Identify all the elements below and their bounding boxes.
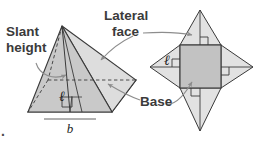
slant-height-label-line1: Slant: [6, 24, 40, 39]
figure-canvas: ℓ b ℓ: [0, 0, 276, 145]
pyramid-slant-height-symbol: ℓ: [59, 89, 65, 104]
geometry-figure: ℓ b ℓ: [0, 0, 276, 145]
net-slant-height-symbol: ℓ: [164, 53, 170, 68]
pyramid-base-symbol: b: [67, 121, 74, 136]
net-base-square: [180, 45, 221, 88]
base-label: Base: [140, 94, 173, 109]
lateral-face-label-line1: Lateral: [104, 8, 148, 23]
page-corner-mark: .: [1, 123, 5, 139]
lateral-face-label-line2: face: [112, 24, 140, 39]
slant-height-label-line2: height: [6, 40, 47, 55]
